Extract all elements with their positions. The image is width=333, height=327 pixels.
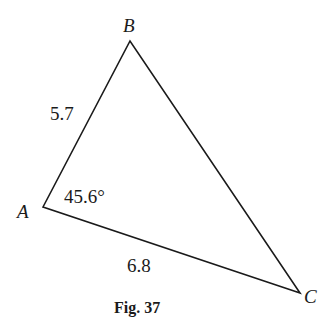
vertex-label-b: B xyxy=(123,16,135,35)
side-ab-length: 5.7 xyxy=(50,104,74,123)
angle-a-measure: 45.6° xyxy=(64,187,105,206)
vertex-label-a: A xyxy=(17,202,29,221)
figure-caption: Fig. 37 xyxy=(114,300,160,316)
triangle-abc xyxy=(43,41,300,293)
triangle-diagram xyxy=(0,0,333,327)
vertex-label-c: C xyxy=(304,287,317,306)
side-ac-length: 6.8 xyxy=(127,256,151,275)
